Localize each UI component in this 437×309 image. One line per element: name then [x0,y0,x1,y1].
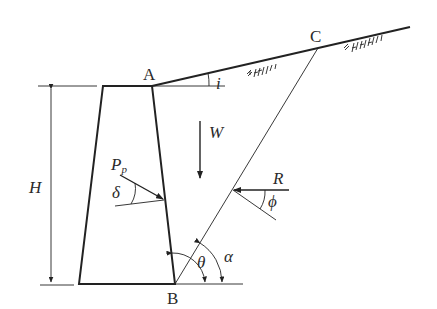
slope-angle-arc [208,73,209,86]
ground-surface [152,27,410,86]
label-height: H [28,178,43,197]
label-passive-force: Pp [110,155,127,175]
label-wall-angle: θ [197,253,205,272]
wall-friction-arc [131,183,135,204]
label-plane-angle: α [224,247,234,266]
ground-hatching-left [247,64,276,77]
label-soil-friction: ϕ [268,192,277,211]
point-b-label: B [167,289,178,308]
label-wall-friction: δ [112,183,121,202]
height-dimension: H [28,86,97,285]
label-weight: W [209,123,225,142]
soil-friction-arc [260,190,265,209]
failure-plane-bc [175,48,318,284]
point-a-label: A [143,65,156,84]
retaining-wall-diagram: H i A C B W Pp δ R ϕ θ [0,0,437,309]
passive-force-arrow [120,175,163,199]
retaining-wall [79,86,175,284]
label-reaction: R [272,169,284,188]
point-c-label: C [310,27,321,46]
wall-normal-line [115,200,164,206]
label-slope-angle: i [216,74,221,93]
